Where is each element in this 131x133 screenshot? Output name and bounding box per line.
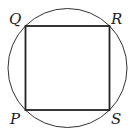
vertex-label-s: S bbox=[111, 110, 121, 128]
vertex-label-q: Q bbox=[9, 10, 21, 28]
vertex-label-r: R bbox=[110, 10, 122, 28]
vertex-label-p: P bbox=[9, 110, 21, 128]
diagram-canvas: Q R P S bbox=[0, 0, 131, 133]
square-pqrs bbox=[26, 26, 110, 110]
